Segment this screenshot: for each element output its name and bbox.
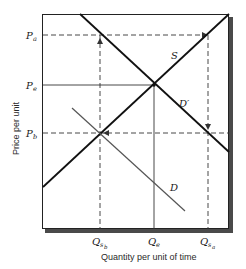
svg-text:P: P: [25, 30, 33, 41]
quantity-label-qsa: Q s a: [200, 236, 215, 250]
svg-text:e: e: [33, 85, 37, 93]
demand-shifted-label: D′: [178, 98, 190, 109]
supply-curve: [43, 14, 229, 187]
quantity-label-qsb: Q s b: [92, 236, 108, 250]
svg-text:b: b: [104, 244, 108, 250]
svg-text:a: a: [33, 35, 37, 43]
supply-label: S: [171, 50, 178, 61]
price-label-pb: P b: [25, 128, 37, 141]
equilibrium-point: [152, 83, 156, 87]
arrow-down-icon: [205, 124, 211, 130]
svg-text:Q: Q: [200, 236, 208, 247]
price-label-pa: P a: [25, 30, 37, 43]
demand-label: D: [169, 182, 178, 193]
x-axis-title: Quantity per unit of time: [101, 252, 197, 262]
y-axis-title: Price per unit: [11, 101, 21, 155]
svg-text:b: b: [33, 133, 37, 141]
svg-text:Q: Q: [148, 236, 156, 247]
svg-text:P: P: [25, 128, 33, 139]
dashed-guides: [43, 35, 229, 229]
svg-text:e: e: [156, 241, 160, 249]
supply-demand-diagram: S D′ D P a P e P b Q s b Q e Q s a Quant…: [0, 0, 246, 269]
price-label-pe: P e: [25, 80, 37, 93]
plot-frame: [43, 15, 229, 229]
demand-curve: [72, 108, 185, 211]
svg-text:a: a: [212, 244, 215, 250]
frame-shadow-right: [229, 17, 233, 233]
svg-text:Q: Q: [92, 236, 100, 247]
arrow-up-icon: [97, 38, 103, 44]
frame-shadow-bottom: [45, 229, 233, 233]
svg-text:P: P: [25, 80, 33, 91]
quantity-label-qe: Q e: [148, 236, 160, 249]
